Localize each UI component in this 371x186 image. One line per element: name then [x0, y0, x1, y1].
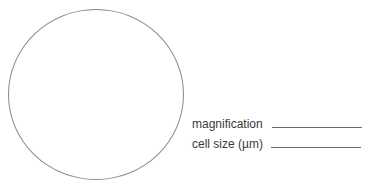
cell-size-field: cell size (µm): [192, 137, 361, 151]
field-of-view-circle[interactable]: [8, 9, 184, 180]
cell-size-label: cell size (µm): [192, 137, 263, 151]
cell-size-answer-line[interactable]: [271, 147, 361, 148]
magnification-answer-line[interactable]: [272, 127, 362, 128]
magnification-field: magnification: [192, 117, 362, 131]
magnification-label: magnification: [192, 117, 263, 131]
